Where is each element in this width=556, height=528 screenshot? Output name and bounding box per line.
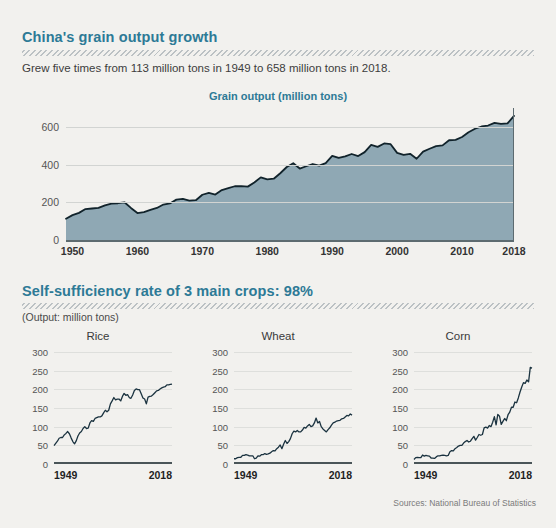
small-chart-plot-area: 05010015020025030019492018 xyxy=(54,352,172,464)
small-chart-y-tick-label: 0 xyxy=(223,459,228,470)
section2-subtitle: (Output: million tons) xyxy=(22,311,119,323)
small-chart-y-tick-label: 0 xyxy=(403,459,408,470)
main-chart-y-tick-label: 200 xyxy=(41,196,59,208)
small-chart-plot-area: 05010015020025030019492018 xyxy=(414,352,532,464)
small-chart-corn: Corn05010015020025030019492018 xyxy=(374,330,542,495)
small-chart-y-tick-label: 300 xyxy=(392,347,408,358)
small-chart-y-tick-label: 150 xyxy=(212,403,228,414)
small-chart-y-tick-label: 300 xyxy=(32,347,48,358)
hatched-divider-2 xyxy=(22,303,534,309)
small-chart-y-tick-label: 250 xyxy=(32,365,48,376)
small-chart-y-tick-label: 100 xyxy=(32,421,48,432)
infographic-page: China's grain output growth Grew five ti… xyxy=(0,0,556,528)
main-chart-x-tick-label: 1950 xyxy=(61,245,84,257)
main-chart-right-axis xyxy=(513,108,515,240)
small-chart-y-tick-label: 100 xyxy=(212,421,228,432)
main-chart-x-tick-label: 2018 xyxy=(502,245,525,257)
small-chart-plot-area: 05010015020025030019492018 xyxy=(234,352,352,464)
small-chart-y-tick-label: 100 xyxy=(392,421,408,432)
small-chart-y-tick-label: 0 xyxy=(43,459,48,470)
main-chart-plot-area: 0200400600195019601970198019902000201020… xyxy=(66,108,514,240)
small-chart-x-tick-label: 1949 xyxy=(234,469,257,481)
main-chart-y-tick-label: 0 xyxy=(53,234,59,246)
small-chart-y-tick-label: 150 xyxy=(32,403,48,414)
small-chart-y-tick-label: 250 xyxy=(392,365,408,376)
small-chart-y-tick-label: 50 xyxy=(37,440,48,451)
small-chart-rice: Rice05010015020025030019492018 xyxy=(14,330,182,495)
small-chart-title: Wheat xyxy=(194,330,362,342)
main-chart-gridline xyxy=(66,127,514,128)
main-chart-y-tick-label: 400 xyxy=(41,159,59,171)
small-chart-x-tick-label: 2018 xyxy=(149,469,172,481)
small-chart-svg xyxy=(54,352,172,464)
main-chart-x-tick-label: 2000 xyxy=(385,245,408,257)
main-chart-y-tick-label: 600 xyxy=(41,121,59,133)
small-chart-x-tick-label: 2018 xyxy=(509,469,532,481)
small-chart-title: Rice xyxy=(14,330,182,342)
small-chart-x-tick-label: 2018 xyxy=(329,469,352,481)
main-chart-x-tick-label: 1980 xyxy=(256,245,279,257)
main-chart-gridline xyxy=(66,165,514,166)
small-chart-y-tick-label: 200 xyxy=(32,384,48,395)
small-chart-svg xyxy=(414,352,532,464)
small-chart-y-tick-label: 150 xyxy=(392,403,408,414)
small-chart-y-tick-label: 50 xyxy=(217,440,228,451)
main-chart-x-tick-label: 1990 xyxy=(321,245,344,257)
main-chart-x-axis xyxy=(66,240,514,242)
small-chart-y-tick-label: 300 xyxy=(212,347,228,358)
main-chart-x-tick-label: 2010 xyxy=(450,245,473,257)
small-chart-svg xyxy=(234,352,352,464)
main-chart-x-tick-label: 1960 xyxy=(126,245,149,257)
small-chart-y-tick-label: 250 xyxy=(212,365,228,376)
section1-subtitle: Grew five times from 113 million tons in… xyxy=(22,62,391,74)
small-chart-x-tick-label: 1949 xyxy=(54,469,77,481)
small-chart-wheat: Wheat05010015020025030019492018 xyxy=(194,330,362,495)
hatched-divider-1 xyxy=(22,50,534,56)
sources-note: Sources: National Bureau of Statistics xyxy=(393,498,536,508)
small-multiples-group: Rice05010015020025030019492018Wheat05010… xyxy=(14,330,542,495)
page-title: China's grain output growth xyxy=(22,29,217,45)
small-chart-title: Corn xyxy=(374,330,542,342)
small-chart-y-tick-label: 50 xyxy=(397,440,408,451)
small-chart-x-tick-label: 1949 xyxy=(414,469,437,481)
main-chart-x-tick-label: 1970 xyxy=(191,245,214,257)
grain-output-area-chart: Grain output (million tons) 020040060019… xyxy=(22,90,534,265)
section2-title: Self-sufficiency rate of 3 main crops: 9… xyxy=(22,283,313,299)
main-chart-legend: Grain output (million tons) xyxy=(22,90,534,102)
main-chart-gridline xyxy=(66,202,514,203)
small-chart-y-tick-label: 200 xyxy=(392,384,408,395)
small-chart-y-tick-label: 200 xyxy=(212,384,228,395)
